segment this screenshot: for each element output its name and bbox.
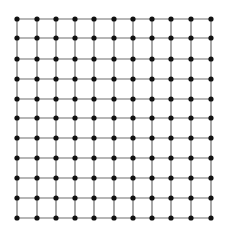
grid-node — [53, 96, 58, 101]
grid-node — [130, 215, 135, 220]
grid-node — [208, 56, 213, 61]
grid-node — [14, 215, 19, 220]
grid-node — [208, 135, 213, 140]
grid-node — [130, 16, 135, 21]
grid-node — [34, 175, 39, 180]
grid-node — [130, 175, 135, 180]
grid-node — [168, 135, 173, 140]
grid-node — [72, 215, 77, 220]
grid-node — [168, 35, 173, 40]
grid-node — [188, 155, 193, 160]
grid-node — [149, 195, 154, 200]
grid-node — [14, 135, 19, 140]
grid-node — [91, 16, 96, 21]
grid-node — [188, 35, 193, 40]
grid-node — [34, 215, 39, 220]
grid-node — [53, 115, 58, 120]
grid-node — [149, 155, 154, 160]
grid-node — [53, 16, 58, 21]
grid-node — [208, 195, 213, 200]
grid-node — [72, 96, 77, 101]
grid-node — [34, 16, 39, 21]
grid-node — [53, 175, 58, 180]
grid-node — [111, 96, 116, 101]
grid-node — [91, 195, 96, 200]
grid-node — [111, 175, 116, 180]
grid-node — [149, 175, 154, 180]
grid-node — [208, 76, 213, 81]
grid-node — [168, 175, 173, 180]
grid-node — [149, 16, 154, 21]
grid-node — [34, 155, 39, 160]
grid-node — [91, 155, 96, 160]
grid-node — [111, 76, 116, 81]
grid-node — [168, 76, 173, 81]
grid-node — [111, 115, 116, 120]
grid-node — [91, 56, 96, 61]
grid-node — [188, 56, 193, 61]
grid-node — [130, 96, 135, 101]
grid-node — [91, 115, 96, 120]
grid-node — [130, 195, 135, 200]
grid-node — [188, 96, 193, 101]
grid-node — [72, 56, 77, 61]
grid-node — [14, 56, 19, 61]
grid-node — [188, 215, 193, 220]
grid-node — [34, 76, 39, 81]
grid-node — [130, 135, 135, 140]
grid-node — [14, 175, 19, 180]
grid-node — [53, 195, 58, 200]
grid-node — [14, 195, 19, 200]
grid-node — [34, 135, 39, 140]
grid-node — [188, 115, 193, 120]
grid-node — [168, 16, 173, 21]
grid-node — [188, 16, 193, 21]
grid-node — [149, 135, 154, 140]
grid-node — [208, 35, 213, 40]
grid-node — [149, 76, 154, 81]
grid-node — [130, 76, 135, 81]
grid-node — [208, 115, 213, 120]
grid-node — [208, 96, 213, 101]
grid-node — [14, 155, 19, 160]
grid-node — [91, 35, 96, 40]
grid-node — [91, 135, 96, 140]
grid-node — [188, 175, 193, 180]
grid-node — [188, 76, 193, 81]
grid-node — [72, 16, 77, 21]
grid-node — [168, 56, 173, 61]
grid-node — [111, 56, 116, 61]
grid-node — [72, 76, 77, 81]
grid-node — [130, 155, 135, 160]
grid-node — [14, 16, 19, 21]
grid-node — [168, 96, 173, 101]
grid-node — [53, 35, 58, 40]
grid-node — [14, 96, 19, 101]
grid-node — [130, 35, 135, 40]
grid-node — [168, 195, 173, 200]
grid-node — [168, 215, 173, 220]
grid-node — [72, 135, 77, 140]
grid-node — [72, 115, 77, 120]
grid-node — [53, 155, 58, 160]
grid-node — [130, 56, 135, 61]
grid-node — [111, 16, 116, 21]
grid-node — [111, 35, 116, 40]
grid-node — [149, 115, 154, 120]
grid-node — [149, 96, 154, 101]
grid-node — [111, 155, 116, 160]
grid-node — [111, 195, 116, 200]
grid-node — [72, 35, 77, 40]
grid-node — [111, 215, 116, 220]
grid-node — [53, 56, 58, 61]
grid-node — [149, 35, 154, 40]
grid-node — [130, 115, 135, 120]
grid-node — [14, 35, 19, 40]
grid-node — [208, 16, 213, 21]
grid-node — [34, 115, 39, 120]
grid-node — [111, 135, 116, 140]
grid-node — [168, 155, 173, 160]
grid-node — [168, 115, 173, 120]
grid-node — [188, 135, 193, 140]
grid-node — [53, 135, 58, 140]
